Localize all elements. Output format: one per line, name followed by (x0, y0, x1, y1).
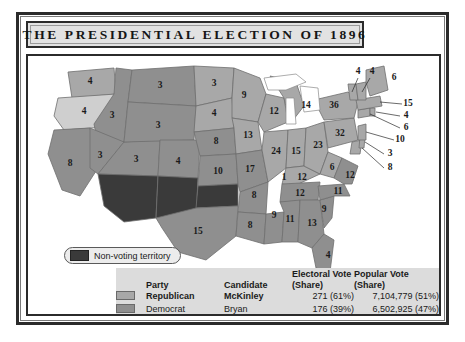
label-de: 3 (388, 148, 393, 158)
header-electoral-sub: (Share) (292, 280, 354, 290)
header-electoral: Electoral Vote (Share) (292, 268, 354, 290)
label-id: 3 (110, 110, 115, 120)
label-me: 6 (392, 72, 397, 82)
label-nv: 3 (98, 150, 103, 160)
state-ok (196, 184, 238, 208)
label-il: 24 (271, 146, 281, 156)
header-popular-main: Popular Vote (354, 269, 439, 279)
label-la: 8 (248, 220, 253, 230)
nonvoting-legend: Non-voting territory (64, 247, 181, 264)
row-party-democrat: Democrat (146, 303, 224, 316)
label-wi: 12 (269, 106, 279, 116)
results-table: Party Candidate Electoral Vote (Share) P… (116, 268, 439, 316)
header-swatch-col (116, 268, 146, 290)
results-table-panel: Party Candidate Electoral Vote (Share) P… (116, 268, 439, 316)
label-md: 8 (388, 162, 393, 172)
label-in: 15 (291, 146, 301, 156)
title-banner: THE PRESIDENTIAL ELECTION OF 1896 (26, 21, 364, 48)
leader-ma (380, 102, 402, 104)
label-va: 12 (345, 170, 355, 180)
label-co: 4 (176, 156, 181, 166)
header-popular: Popular Vote (Share) (354, 268, 439, 290)
leader-md (362, 148, 384, 168)
row-swatch-republican (116, 290, 146, 303)
label-sc: 9 (322, 204, 327, 214)
row-popular-democrat: 6,502,925 (47%) (354, 303, 439, 316)
state-nh (356, 82, 366, 100)
label-tx: 15 (193, 226, 203, 236)
header-candidate: Candidate (224, 268, 292, 290)
label-ar: 8 (252, 190, 257, 200)
label-nd: 3 (212, 78, 217, 88)
header-popular-sub: (Share) (354, 280, 439, 290)
swatch-republican (116, 291, 135, 300)
table-row: Republican McKinley 271 (61%) 7,104,779 … (116, 290, 439, 303)
label-mi: 14 (301, 100, 311, 110)
label-al: 11 (286, 214, 295, 224)
label-ri: 4 (404, 110, 409, 120)
label-mo: 17 (245, 164, 255, 174)
label-tn: 12 (295, 188, 305, 198)
row-electoral-democrat: 176 (39%) (292, 303, 354, 316)
label-wa: 4 (88, 76, 93, 86)
row-party-republican: Republican (146, 290, 224, 303)
row-popular-republican: 7,104,779 (51%) (354, 290, 439, 303)
table-header-row: Party Candidate Electoral Vote (Share) P… (116, 268, 439, 290)
state-nj (358, 124, 366, 140)
nonvoting-label: Non-voting territory (94, 251, 171, 261)
label-ms: 9 (272, 210, 277, 220)
leader-ct (370, 114, 400, 128)
label-ne: 8 (214, 136, 219, 146)
label-ks: 10 (213, 166, 223, 176)
label-ga: 13 (307, 218, 317, 228)
label-ky: 12 (297, 172, 307, 182)
label-oh: 23 (313, 140, 323, 150)
table-row: Democrat Bryan 176 (39%) 6,502,925 (47%) (116, 303, 439, 316)
label-ia: 13 (243, 130, 253, 140)
label-fl: 4 (326, 250, 331, 260)
label-wy: 3 (156, 120, 161, 130)
label-pa: 32 (335, 128, 345, 138)
nonvoting-swatch (70, 250, 89, 261)
row-swatch-democrat (116, 303, 146, 316)
label-wv: 6 (330, 162, 335, 172)
label-vt: 4 (356, 66, 361, 76)
row-electoral-republican: 271 (61%) (292, 290, 354, 303)
label-nc: 11 (334, 186, 343, 196)
row-candidate-bryan: Bryan (224, 303, 292, 316)
leader-nj (366, 132, 394, 140)
infographic-page: THE PRESIDENTIAL ELECTION OF 1896 (0, 0, 465, 342)
label-ky-split: 1 (282, 172, 287, 182)
leader-ri (376, 112, 400, 116)
label-ut: 3 (134, 154, 139, 164)
label-ct: 6 (404, 122, 409, 132)
header-electoral-main: Electoral Vote (292, 269, 354, 279)
label-nh: 4 (370, 66, 375, 76)
state-az (98, 174, 158, 222)
label-nj: 10 (395, 134, 405, 144)
row-candidate-mckinley: McKinley (224, 290, 292, 303)
map-panel: 4 4 8 3 3 3 3 3 4 3 4 8 10 15 9 13 17 (26, 54, 441, 316)
label-ca: 8 (68, 158, 73, 168)
label-ny: 36 (329, 100, 339, 110)
swatch-democrat (116, 304, 135, 313)
label-sd: 4 (212, 108, 217, 118)
page-title: THE PRESIDENTIAL ELECTION OF 1896 (23, 27, 368, 43)
label-or: 4 (82, 106, 87, 116)
label-mt: 3 (158, 80, 163, 90)
lake-michigan (286, 98, 296, 124)
leader-de (365, 142, 384, 154)
label-mn: 9 (242, 90, 247, 100)
label-ma: 15 (403, 98, 413, 108)
header-party: Party (146, 268, 224, 290)
